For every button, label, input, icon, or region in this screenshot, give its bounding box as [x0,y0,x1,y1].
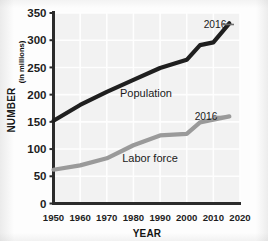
series-label-population: Population [120,87,172,99]
series-label-labor-force: Labor force [122,152,178,164]
y-axis-tick-labels: 050100150200250300350 [27,7,46,210]
x-tick-label: 1960 [69,212,90,223]
line-chart: 050100150200250300350 195019601970198019… [0,0,268,241]
x-tick-label: 1990 [149,212,170,223]
x-tick-label: 1950 [43,212,64,223]
x-tick-label: 1980 [123,212,144,223]
y-axis-title-unit-group: (in millions) [17,40,26,83]
y-tick-label: 350 [27,7,46,19]
y-tick-label: 100 [27,143,46,155]
y-tick-label: 150 [27,116,46,128]
y-tick-label: 200 [27,89,46,101]
y-tick-label: 300 [27,34,46,46]
y-tick-label: 50 [34,170,47,182]
y-tick-label: 0 [40,198,46,210]
x-axis-title: YEAR [133,228,162,239]
x-tick-label: 2000 [176,212,197,223]
x-tick-label: 1970 [96,212,117,223]
y-axis-unit-label: (in millions) [17,40,26,83]
x-tick-label: 2010 [203,212,224,223]
chart-figure: 050100150200250300350 195019601970198019… [0,0,268,241]
y-axis-title: NUMBER (in millions) [6,87,17,133]
y-axis-title-main: NUMBER [6,87,17,133]
x-axis-tick-labels: 19501960197019801990200020102020 [43,212,251,223]
x-tick-label: 2020 [229,212,250,223]
y-tick-label: 250 [27,62,46,74]
